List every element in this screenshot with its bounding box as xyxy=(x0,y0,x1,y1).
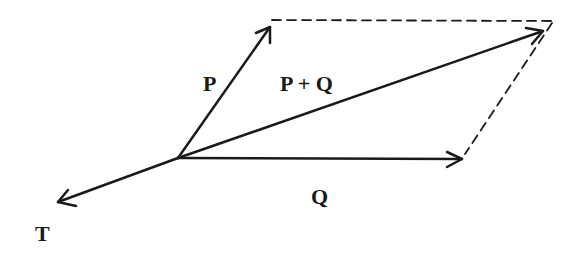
dashed-top-side xyxy=(272,20,553,21)
label-q: Q xyxy=(311,186,328,208)
vector-p-arrow xyxy=(178,27,270,158)
vector-sum-arrow xyxy=(178,28,543,158)
label-p: P xyxy=(203,73,216,95)
label-p-plus-q: P + Q xyxy=(280,73,333,95)
vector-t-arrow xyxy=(58,158,178,206)
label-t: T xyxy=(35,223,50,245)
vector-q-arrow xyxy=(178,152,462,167)
vector-diagram xyxy=(0,0,581,258)
